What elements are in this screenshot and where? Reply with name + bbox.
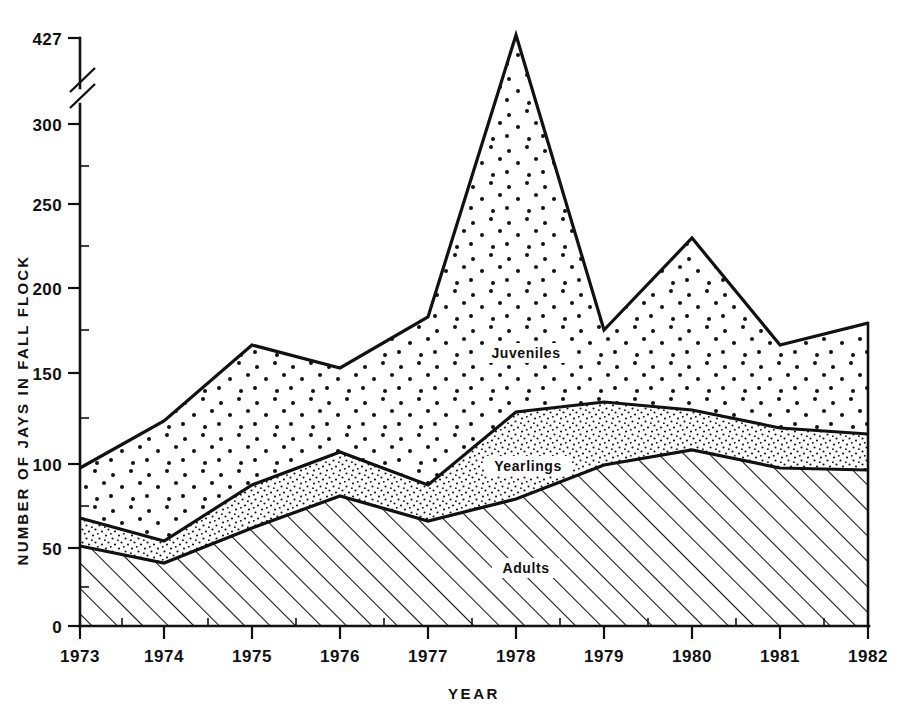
x-axis-title: YEAR: [448, 685, 500, 702]
x-tick-label: 1973: [60, 647, 100, 666]
x-tick-label: 1978: [496, 647, 536, 666]
y-tick-label: 427: [32, 30, 62, 49]
x-tick-label: 1975: [232, 647, 272, 666]
y-axis-ticks: [68, 38, 80, 626]
y-tick-label: 200: [32, 280, 62, 299]
x-tick-label: 1981: [760, 647, 800, 666]
plot-area: [80, 35, 868, 625]
axis-break-icon: [70, 68, 95, 108]
y-tick-label: 50: [42, 540, 62, 559]
y-axis-title: NUMBER OF JAYS IN FALL FLOCK: [14, 255, 31, 566]
series-annotation-adults: Adults: [492, 558, 560, 578]
x-tick-label: 1977: [408, 647, 448, 666]
series-annotation-juveniles: Juveniles: [484, 343, 568, 363]
x-axis-ticks: [80, 626, 868, 639]
series-label-yearlings: Yearlings: [494, 458, 562, 474]
stacked-area-chart: 427 300 250 200 150 100 50 0: [0, 0, 924, 709]
y-tick-label: 100: [32, 456, 62, 475]
series-annotation-yearlings: Yearlings: [484, 456, 572, 476]
y-tick-labels: 427 300 250 200 150 100 50 0: [32, 30, 62, 637]
y-tick-label: 0: [52, 618, 62, 637]
x-tick-label: 1980: [672, 647, 712, 666]
x-tick-label: 1976: [320, 647, 360, 666]
x-tick-label: 1974: [144, 647, 184, 666]
x-tick-labels: 1973 1974 1975 1976 1977 1978 1979 1980 …: [60, 647, 888, 666]
series-label-adults: Adults: [502, 560, 549, 576]
y-tick-label: 250: [32, 196, 62, 215]
chart-figure: 427 300 250 200 150 100 50 0: [0, 0, 924, 709]
y-tick-label: 300: [32, 116, 62, 135]
series-label-juveniles: Juveniles: [491, 345, 560, 361]
x-tick-label: 1982: [848, 647, 888, 666]
y-tick-label: 150: [32, 365, 62, 384]
x-tick-label: 1979: [584, 647, 624, 666]
